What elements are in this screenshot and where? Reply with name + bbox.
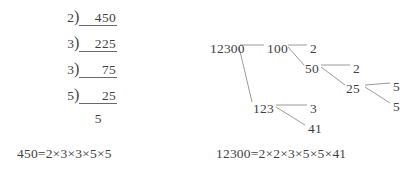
ladder-vinculum xyxy=(79,103,117,104)
tree-node-123: 123 xyxy=(253,102,274,116)
ladder-divisor: 3 xyxy=(58,63,74,77)
tree-node-root: 12300 xyxy=(210,42,245,56)
worksheet-canvas: 2 ) 450 3 ) 225 3 ) 75 5 ) 25 5 xyxy=(0,0,420,172)
division-bracket-icon: ) xyxy=(74,35,79,51)
tree-node-prime-5a: 5 xyxy=(393,80,400,94)
tree-node-prime-41: 41 xyxy=(308,122,322,136)
ladder-divisor: 2 xyxy=(58,11,74,25)
tree-node-prime-2b: 2 xyxy=(353,62,360,76)
division-bracket-icon: ) xyxy=(74,87,79,103)
ladder-row: 2 ) 450 xyxy=(58,8,158,33)
equation-450: 450=2×3×3×5×5 xyxy=(17,147,112,161)
tree-node-25: 25 xyxy=(346,82,360,96)
ladder-divisor: 3 xyxy=(58,37,74,51)
tree-node-prime-3: 3 xyxy=(310,102,317,116)
tree-node-prime-5b: 5 xyxy=(393,100,400,114)
tree-edge xyxy=(276,107,305,125)
ladder-row: 5 ) 25 xyxy=(58,86,158,111)
factor-tree-12300: 12300 100 2 50 2 25 5 5 123 3 41 xyxy=(210,34,420,134)
tree-edge xyxy=(288,47,304,65)
tree-edge xyxy=(321,67,345,85)
tree-node-prime-2a: 2 xyxy=(310,42,317,56)
tree-node-100: 100 xyxy=(267,42,288,56)
division-ladder-450: 2 ) 450 3 ) 225 3 ) 75 5 ) 25 5 xyxy=(58,8,168,138)
ladder-dividend: 75 xyxy=(80,63,116,77)
tree-edge xyxy=(365,83,390,85)
tree-edge xyxy=(365,87,390,103)
equation-12300: 12300=2×2×3×5×5×41 xyxy=(216,147,346,161)
division-bracket-icon: ) xyxy=(74,9,79,25)
ladder-divisor: 5 xyxy=(58,89,74,103)
ladder-row: 3 ) 225 xyxy=(58,34,158,59)
tree-node-50: 50 xyxy=(305,62,319,76)
ladder-vinculum xyxy=(79,25,117,26)
division-bracket-icon: ) xyxy=(74,61,79,77)
ladder-final-quotient: 5 xyxy=(80,112,116,126)
ladder-dividend: 225 xyxy=(80,37,116,51)
ladder-dividend: 450 xyxy=(80,11,116,25)
ladder-vinculum xyxy=(79,77,117,78)
ladder-row: 3 ) 75 xyxy=(58,60,158,85)
ladder-dividend: 25 xyxy=(80,89,116,103)
ladder-vinculum xyxy=(79,51,117,52)
